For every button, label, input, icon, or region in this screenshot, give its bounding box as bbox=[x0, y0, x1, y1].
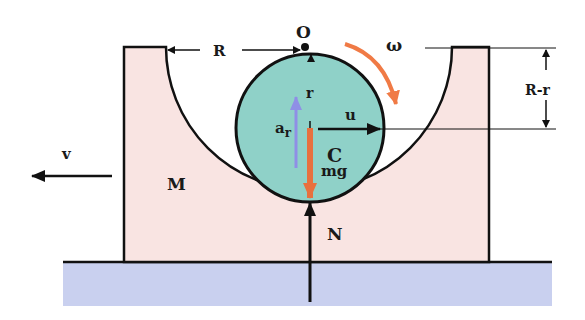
label-R: R bbox=[213, 42, 226, 60]
physics-diagram: O R ω R-r r u ar C mg v M N bbox=[0, 0, 585, 320]
label-mg: mg bbox=[321, 162, 348, 180]
label-O: O bbox=[296, 22, 311, 42]
floor bbox=[63, 262, 552, 306]
label-u: u bbox=[345, 106, 356, 124]
center-point-O bbox=[301, 43, 309, 51]
label-v: v bbox=[61, 145, 72, 163]
label-R-minus-r: R-r bbox=[525, 82, 550, 98]
label-omega: ω bbox=[386, 35, 402, 55]
label-ar-sub: r bbox=[285, 126, 292, 140]
label-r: r bbox=[306, 85, 314, 101]
label-ar-main: a bbox=[275, 119, 285, 137]
label-M: M bbox=[167, 174, 186, 194]
label-N: N bbox=[327, 224, 343, 244]
